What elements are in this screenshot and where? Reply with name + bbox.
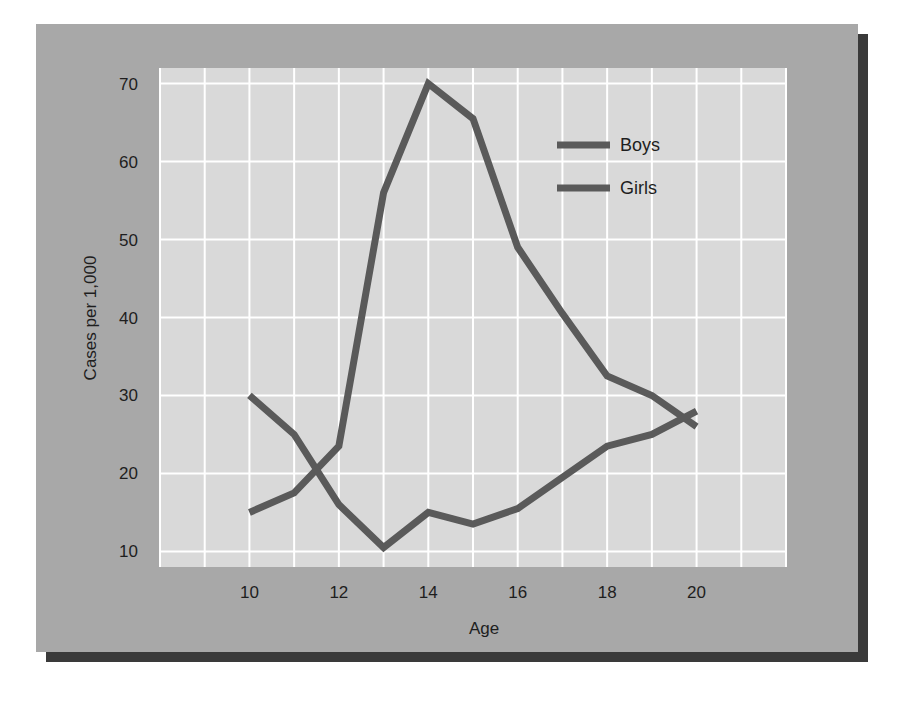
line-chart: 10203040506070101214161820AgeCases per 1… bbox=[0, 0, 900, 708]
x-tick-label: 10 bbox=[240, 583, 259, 602]
legend-label-1: Girls bbox=[620, 178, 657, 198]
x-axis-label: Age bbox=[469, 619, 499, 638]
x-tick-label: 14 bbox=[419, 583, 438, 602]
x-tick-label: 20 bbox=[687, 583, 706, 602]
y-tick-label: 60 bbox=[119, 153, 138, 172]
y-tick-label: 30 bbox=[119, 386, 138, 405]
y-tick-label: 70 bbox=[119, 75, 138, 94]
y-axis-label: Cases per 1,000 bbox=[81, 256, 100, 381]
x-tick-label: 18 bbox=[598, 583, 617, 602]
y-tick-label: 50 bbox=[119, 231, 138, 250]
y-tick-label: 10 bbox=[119, 542, 138, 561]
legend-label-0: Boys bbox=[620, 135, 660, 155]
x-tick-label: 12 bbox=[329, 583, 348, 602]
y-tick-label: 40 bbox=[119, 309, 138, 328]
x-tick-label: 16 bbox=[508, 583, 527, 602]
y-tick-label: 20 bbox=[119, 464, 138, 483]
